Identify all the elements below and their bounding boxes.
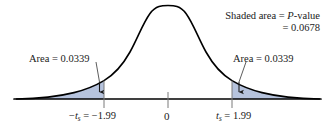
right-area-label: Area = 0.0339 bbox=[233, 53, 293, 65]
right-area-leader-line bbox=[239, 62, 246, 82]
x-tick-label-positive-critical: ts = 1.99 bbox=[216, 110, 251, 123]
positive-critical-value: = 1.99 bbox=[222, 110, 252, 121]
p-value-annotation-line2: = 0.0678 bbox=[196, 22, 320, 34]
right-tail-shaded-area bbox=[232, 81, 320, 99]
x-tick-label-negative-critical: −ts = −1.99 bbox=[69, 110, 116, 123]
left-tail-shaded-area bbox=[17, 81, 105, 99]
left-area-label: Area = 0.0339 bbox=[29, 53, 89, 65]
negative-critical-value: = −1.99 bbox=[81, 110, 116, 121]
x-tick-label-zero: 0 bbox=[164, 110, 170, 122]
p-value-prefix-text: Shaded area = bbox=[225, 10, 287, 21]
p-value-suffix-text: -value bbox=[294, 10, 320, 21]
p-value-annotation-line1: Shaded area = P-value bbox=[196, 10, 320, 22]
p-value-annotation: Shaded area = P-value = 0.0678 bbox=[196, 10, 320, 34]
left-area-leader-line bbox=[96, 62, 100, 82]
t-distribution-p-value-figure: Shaded area = P-value = 0.0678 Area = 0.… bbox=[0, 0, 333, 132]
